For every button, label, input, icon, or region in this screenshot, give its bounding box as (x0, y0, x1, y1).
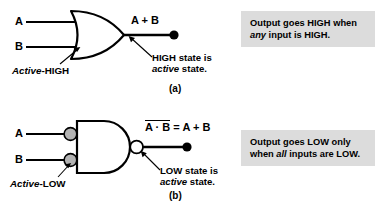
active-high-label-plain: -HIGH (41, 65, 69, 76)
low-state-leader-line (143, 153, 160, 170)
high-state-callout-plain: state. (179, 63, 207, 74)
active-low-label-plain: -LOW (39, 178, 65, 189)
infobox-active-high: Output goes HIGH when any input is HIGH. (241, 11, 375, 47)
nand-output-expression: A · B = A + B (145, 120, 210, 134)
or-output-terminal-dot (169, 30, 178, 39)
high-state-callout-italic: active (152, 63, 179, 74)
infobox-b-line2: when all inputs are LOW. (250, 149, 367, 161)
or-output-expression: A + B (131, 15, 159, 26)
nand-output-expression-overlined: A · B (145, 120, 170, 134)
nand-input-a-label: A (15, 128, 23, 139)
figure-label-a: (a) (169, 84, 181, 94)
high-state-callout-line1: HIGH state is (152, 52, 212, 63)
infobox-b-plain-b: inputs are LOW. (287, 149, 360, 159)
infobox-a-plain: input is HIGH. (266, 30, 330, 40)
low-state-callout: LOW state is active state. (160, 165, 218, 188)
low-state-callout-line2: active state. (160, 176, 218, 187)
active-low-label-italic: Active (10, 178, 39, 189)
nand-output-expression-rest: = A + B (170, 121, 210, 133)
nand-input-b-label: B (15, 154, 23, 165)
infobox-a-italic: any (250, 30, 266, 40)
active-high-label-italic: Active (12, 65, 41, 76)
infobox-a-line2: any input is HIGH. (250, 30, 367, 42)
infobox-b-line1: Output goes LOW only (250, 137, 367, 149)
infobox-a-line1: Output goes HIGH when (250, 18, 367, 30)
high-state-leader-line (131, 38, 152, 57)
nand-output-terminal-dot (182, 142, 191, 151)
active-high-label: Active-HIGH (12, 66, 69, 76)
low-state-callout-line1: LOW state is (160, 165, 218, 176)
low-state-callout-italic: active (160, 176, 187, 187)
nand-gate-body (77, 121, 130, 173)
infobox-active-low: Output goes LOW only when all inputs are… (241, 130, 375, 166)
active-low-label: Active-LOW (10, 179, 66, 189)
high-state-callout: HIGH state is active state. (152, 52, 212, 75)
infobox-b-plain-a: when (250, 149, 276, 159)
or-input-a-label: A (15, 16, 23, 27)
low-state-callout-plain: state. (187, 176, 215, 187)
nand-input-a-bubble (64, 128, 77, 141)
or-gate-body (71, 11, 124, 59)
figure-label-b: (b) (169, 191, 182, 201)
infobox-b-italic: all (276, 149, 286, 159)
high-state-callout-line2: active state. (152, 63, 212, 74)
or-input-b-label: B (15, 41, 23, 52)
figure-canvas: A B A + B Active-HIGH HIGH state is acti… (0, 0, 383, 211)
